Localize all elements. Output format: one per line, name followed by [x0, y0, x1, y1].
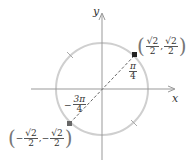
coordinate-label-third-quadrant: ( − √22 , − √22 ) [8, 128, 73, 148]
x-axis-label: x [172, 92, 178, 105]
angle-label-minus-3pi-over-4: − 3π4 [64, 95, 87, 114]
coordinate-label-first-quadrant: ( √22 , √22 ) [137, 36, 186, 56]
angle-label-pi-over-4: π4 [128, 62, 138, 81]
y-axis-label: y [93, 5, 99, 18]
